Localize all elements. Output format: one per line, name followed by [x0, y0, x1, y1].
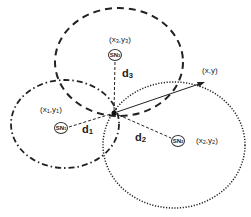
sn3-sub: 3	[118, 53, 120, 58]
d1-label: d1	[82, 124, 93, 136]
sn3-node: SN3	[108, 49, 122, 61]
d2-label: d2	[135, 132, 146, 144]
trilateration-diagram: SN1 SN2 SN3 (x1,y1) (x2,y2) (x3,y3) d1 d…	[0, 0, 251, 217]
sn3-range-circle	[55, 8, 183, 116]
d3-label: d3	[122, 68, 133, 80]
sn2-node: SN2	[171, 135, 185, 147]
sn3-coord-label: (x3,y3)	[109, 36, 131, 45]
sn2-sub: 2	[181, 139, 183, 144]
sn2-label: SN	[173, 138, 181, 144]
sn3-label: SN	[110, 52, 118, 58]
sn1-coord-label: (x1,y1)	[40, 106, 62, 115]
sn1-label: SN	[56, 125, 64, 131]
intersection-point	[112, 111, 117, 116]
arrowhead-icon	[197, 82, 205, 87]
target-coord-label: (x,y)	[202, 67, 218, 75]
diagram-canvas	[0, 0, 251, 217]
sn2-coord-label: (x2,y2)	[196, 137, 218, 146]
sn1-sub: 1	[64, 126, 66, 131]
sn1-node: SN1	[54, 122, 68, 134]
target-arrow	[114, 83, 202, 113]
